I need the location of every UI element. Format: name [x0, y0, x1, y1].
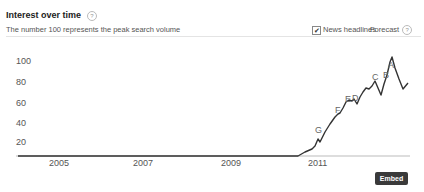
marker-d: D — [352, 93, 359, 103]
embed-button[interactable]: Embed — [375, 172, 408, 185]
marker-f: F — [335, 105, 341, 115]
marker-b: B — [383, 70, 389, 80]
marker-a: A — [388, 60, 394, 70]
marker-g: G — [315, 125, 322, 135]
marker-c: C — [372, 72, 379, 82]
line-chart[interactable]: G F E D C B A — [0, 0, 424, 192]
marker-e: E — [345, 94, 351, 104]
event-markers: G F E D C B A — [315, 60, 394, 135]
interest-line — [18, 57, 408, 156]
